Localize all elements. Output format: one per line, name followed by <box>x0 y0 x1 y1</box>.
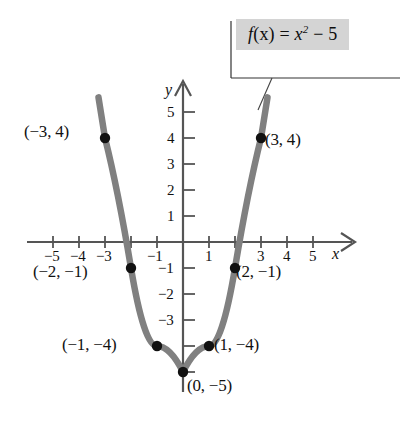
callout-tail: − 5 <box>308 24 337 44</box>
point-label-0--5: (0, −5) <box>187 377 232 394</box>
figure-canvas: f(x) = x2 − 5 y x −5 −4 −3 −1 1 3 4 5 5 … <box>0 0 403 435</box>
y-axis-label: y <box>165 82 172 98</box>
y-tick-label-5: 5 <box>167 105 174 120</box>
point-label--2--1: (−2, −1) <box>33 263 87 280</box>
x-tick-label-1: 1 <box>205 249 212 264</box>
point-label-1--4: (1, −4) <box>214 336 259 353</box>
x-tick-label-5: 5 <box>309 249 316 264</box>
y-tick-label-4: 4 <box>167 131 174 146</box>
function-callout-label: f(x) = x2 − 5 <box>236 19 349 50</box>
y-tick-label--3: −3 <box>158 313 173 328</box>
parabola-plot <box>0 0 403 435</box>
y-tick-label--2: −2 <box>158 287 173 302</box>
point-label-2--1: (2, −1) <box>236 263 281 280</box>
y-tick-label-3: 3 <box>167 157 174 172</box>
y-tick-label-2: 2 <box>167 183 174 198</box>
y-tick-label-1: 1 <box>167 209 174 224</box>
data-point <box>100 133 110 143</box>
y-tick-label--1: −1 <box>158 261 173 276</box>
point-label--1--4: (−1, −4) <box>62 336 116 353</box>
x-tick-label--3: −3 <box>96 249 111 264</box>
point-label--3-4: (−3, 4) <box>24 123 69 140</box>
x-tick-label-4: 4 <box>283 249 290 264</box>
callout-variable: x <box>295 24 303 44</box>
data-point <box>204 341 214 351</box>
x-axis-label: x <box>332 246 339 262</box>
data-point <box>152 341 162 351</box>
point-label-3-4: (3, 4) <box>265 131 301 148</box>
data-point <box>126 263 136 273</box>
callout-fn-arg: (x) = <box>253 24 294 44</box>
y-axis <box>175 81 195 392</box>
